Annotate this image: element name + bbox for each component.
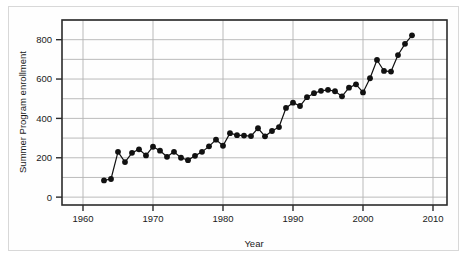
x-tick-label: 2010 [422,213,443,224]
chart-svg: 0200400600800 196019701980199020002010 S… [0,0,469,259]
data-point [248,133,254,139]
data-point [220,143,226,149]
data-point [297,103,303,109]
y-tick-label: 800 [36,34,52,45]
data-point [353,81,359,87]
data-point [409,32,415,38]
data-point [143,153,149,159]
x-tick-label: 1960 [72,213,93,224]
data-point [374,57,380,63]
x-axis-title: Year [244,238,263,249]
y-tick-label: 200 [36,152,52,163]
y-tick-label: 400 [36,113,52,124]
data-point [402,41,408,47]
data-point [213,137,219,143]
y-tick-label: 0 [47,192,52,203]
data-point [269,128,275,134]
data-point [192,153,198,159]
x-axis-ticks: 196019701980199020002010 [72,205,443,224]
data-point [395,52,401,58]
y-axis-ticks: 0200400600800 [36,34,62,202]
data-point [115,149,121,155]
data-point [199,149,205,155]
data-point [346,85,352,91]
x-tick-label: 1970 [142,213,163,224]
gridlines [62,20,447,205]
data-point [241,133,247,139]
x-tick-label: 1990 [282,213,303,224]
data-point [122,159,128,165]
line-chart: 0200400600800 196019701980199020002010 S… [0,0,469,259]
data-point [276,124,282,130]
data-point [108,176,114,182]
data-point [311,90,317,96]
data-point [206,143,212,149]
data-point [332,88,338,94]
data-point [185,157,191,163]
data-point [318,88,324,94]
data-point [290,100,296,106]
x-tick-label: 1980 [212,213,233,224]
data-point [164,154,170,160]
data-point [283,105,289,111]
data-point [178,155,184,161]
x-tick-label: 2000 [352,213,373,224]
data-point [262,133,268,139]
data-point [325,87,331,93]
data-point [367,75,373,81]
y-axis-title: Summer Program enrollment [17,51,28,173]
data-point [255,125,261,131]
data-series [101,32,415,183]
data-point [157,148,163,154]
data-point [129,150,135,156]
data-point [304,94,310,100]
data-point [171,149,177,155]
data-point [150,144,156,150]
data-point [136,146,142,152]
data-point [101,178,107,184]
data-point [360,90,366,96]
data-point [381,68,387,74]
y-tick-label: 600 [36,73,52,84]
series-line [104,35,412,180]
chart-page: 0200400600800 196019701980199020002010 S… [0,0,469,259]
data-point [227,130,233,136]
data-point [339,93,345,99]
data-point [388,69,394,75]
data-point [234,132,240,138]
